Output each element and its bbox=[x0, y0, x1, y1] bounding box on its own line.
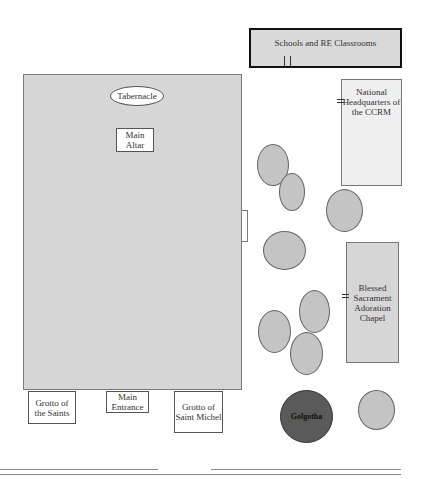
tree bbox=[258, 310, 291, 353]
tree bbox=[326, 189, 363, 232]
schools-door-mark bbox=[290, 56, 291, 66]
headquarters-label: National Headquarters of the CCRM bbox=[343, 87, 401, 117]
main-church-building bbox=[23, 74, 242, 390]
footer-rule bbox=[0, 469, 158, 470]
chapel-door-mark bbox=[342, 297, 349, 298]
schools-building: Schools and RE Classrooms bbox=[249, 28, 402, 68]
headquarters-door-mark bbox=[337, 99, 344, 100]
headquarters-building: National Headquarters of the CCRM bbox=[341, 79, 402, 186]
adoration-chapel-building: Blessed Sacrament Adoration Chapel bbox=[346, 242, 399, 363]
tree bbox=[299, 290, 330, 333]
footer-rule bbox=[0, 474, 401, 475]
schools-label: Schools and RE Classrooms bbox=[275, 38, 377, 48]
tabernacle: Tabernacle bbox=[110, 86, 164, 106]
main-entrance: Main Entrance bbox=[106, 391, 149, 413]
grotto-of-the-saints: Grotto of the Saints bbox=[28, 391, 76, 424]
schools-door-mark bbox=[284, 56, 285, 66]
main-altar: Main Altar bbox=[116, 128, 154, 152]
tree bbox=[263, 231, 306, 270]
headquarters-door-mark bbox=[337, 102, 344, 103]
main-entrance-label: Main Entrance bbox=[107, 392, 148, 412]
golgotha: Golgotha bbox=[280, 390, 333, 443]
side-door bbox=[241, 210, 248, 242]
tree bbox=[358, 390, 395, 430]
tree bbox=[279, 173, 305, 211]
grotto-saints-label: Grotto of the Saints bbox=[29, 398, 75, 418]
golgotha-label: Golgotha bbox=[291, 412, 323, 421]
grotto-michel-label: Grotto of Saint Michel bbox=[175, 402, 222, 422]
footer-rule bbox=[211, 469, 401, 470]
tree bbox=[290, 332, 323, 375]
grotto-of-saint-michel: Grotto of Saint Michel bbox=[174, 391, 223, 433]
chapel-door-mark bbox=[342, 294, 349, 295]
chapel-label: Blessed Sacrament Adoration Chapel bbox=[347, 283, 398, 323]
